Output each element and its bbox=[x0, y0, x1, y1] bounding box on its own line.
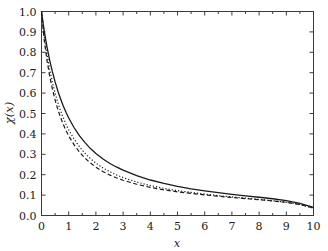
x-tick-label: 10 bbox=[307, 220, 321, 233]
x-axis-tick-labels: 012345678910 bbox=[38, 220, 321, 233]
y-tick-label: 0.8 bbox=[19, 46, 37, 59]
curve-solid bbox=[42, 12, 314, 208]
data-curves bbox=[42, 12, 314, 209]
axis-tick-marks bbox=[42, 12, 314, 216]
plot-frame bbox=[42, 12, 314, 216]
y-tick-label: 0.4 bbox=[19, 128, 37, 141]
x-tick-label: 7 bbox=[228, 220, 235, 233]
x-axis-title: x bbox=[174, 236, 181, 250]
curve-dashed bbox=[42, 12, 314, 208]
x-tick-label: 3 bbox=[120, 220, 127, 233]
x-tick-label: 0 bbox=[38, 220, 45, 233]
y-tick-label: 0.3 bbox=[19, 148, 37, 161]
x-tick-label: 8 bbox=[256, 220, 263, 233]
figure-container: 0.00.10.20.30.40.50.60.70.80.91.0 012345… bbox=[0, 0, 328, 251]
chart-canvas: 0.00.10.20.30.40.50.60.70.80.91.0 012345… bbox=[0, 0, 328, 251]
y-tick-label: 0.1 bbox=[19, 189, 37, 202]
x-tick-label: 6 bbox=[201, 220, 208, 233]
y-axis-title: χ(x) bbox=[2, 102, 16, 125]
x-tick-label: 4 bbox=[147, 220, 154, 233]
y-axis-tick-labels: 0.00.10.20.30.40.50.60.70.80.91.0 bbox=[19, 6, 37, 223]
y-tick-label: 0.5 bbox=[19, 108, 37, 121]
curve-dotted bbox=[42, 12, 314, 209]
y-tick-label: 0.6 bbox=[19, 87, 37, 100]
x-tick-label: 9 bbox=[283, 220, 290, 233]
x-tick-label: 5 bbox=[174, 220, 181, 233]
y-tick-label: 0.0 bbox=[19, 210, 37, 223]
y-tick-label: 1.0 bbox=[19, 6, 37, 19]
x-tick-label: 2 bbox=[92, 220, 99, 233]
x-tick-label: 1 bbox=[65, 220, 72, 233]
y-tick-label: 0.7 bbox=[19, 67, 37, 80]
y-tick-label: 0.2 bbox=[19, 169, 37, 182]
y-tick-label: 0.9 bbox=[19, 26, 37, 39]
